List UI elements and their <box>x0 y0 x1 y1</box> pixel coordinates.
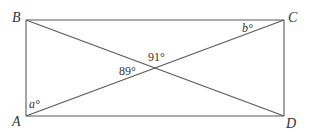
vertex-label-a: A <box>11 114 21 129</box>
vertex-label-b: B <box>12 10 21 25</box>
angle-label-a: a° <box>29 97 40 111</box>
angle-label-b: b° <box>242 21 253 35</box>
vertex-label-d: D <box>285 116 296 131</box>
vertex-label-c: C <box>288 10 298 25</box>
angle-label-89: 89° <box>119 64 136 78</box>
rectangle-diagram: B C A D a° b° 89° 91° <box>0 0 310 132</box>
angle-label-91: 91° <box>148 50 165 64</box>
